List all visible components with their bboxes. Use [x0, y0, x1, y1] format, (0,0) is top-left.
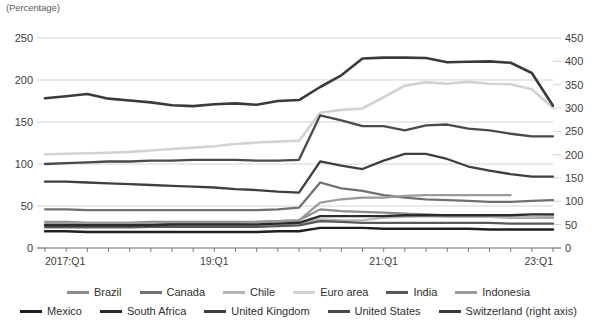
right-axis-tick-label: 350: [565, 79, 583, 91]
gridlines: [45, 38, 553, 206]
legend-swatch-icon: [455, 291, 477, 294]
left-axis-tick-label: 50: [21, 200, 33, 212]
legend-swatch-icon: [328, 310, 350, 313]
legend-swatch-icon: [20, 310, 42, 313]
legend-item[interactable]: United Kingdom: [204, 306, 309, 317]
right-axis-tick-label: 450: [565, 32, 583, 44]
x-axis-tick-label: 23:Q1: [524, 255, 553, 267]
legend-item[interactable]: Brazil: [67, 287, 122, 298]
legend-swatch-icon: [204, 310, 226, 313]
right-axis-tick-label: 200: [565, 149, 583, 161]
legend-item[interactable]: United States: [328, 306, 421, 317]
right-axis-tick-label: 50: [565, 219, 577, 231]
legend-swatch-icon: [67, 291, 89, 294]
right-axis-tick-label: 0: [565, 242, 571, 254]
legend-item-label: United Kingdom: [231, 306, 309, 317]
x-axis-tick-label: 2017:Q1: [45, 255, 85, 267]
legend-swatch-icon: [100, 310, 122, 313]
legend-item-label: Euro area: [320, 287, 368, 298]
legend-item[interactable]: Canada: [140, 287, 206, 298]
x-axis-tick-label: 21:Q1: [369, 255, 398, 267]
legend-item[interactable]: South Africa: [100, 306, 186, 317]
right-axis-tick-label: 300: [565, 102, 583, 114]
chart-figure: (Percentage) 050100150200250 05010015020…: [0, 0, 597, 332]
legend-row-primary: BrazilCanadaChileEuro areaIndiaIndonesia: [0, 283, 597, 302]
chart-legend: BrazilCanadaChileEuro areaIndiaIndonesia…: [0, 283, 597, 321]
legend-item-label: South Africa: [127, 306, 186, 317]
legend-item[interactable]: Switzerland (right axis): [439, 306, 577, 317]
right-axis-ticks: 050100150200250300350400450: [553, 32, 583, 254]
right-axis-tick-label: 400: [565, 55, 583, 67]
legend-item[interactable]: Chile: [223, 287, 275, 298]
legend-item-label: Canada: [167, 287, 206, 298]
legend-item-label: Switzerland (right axis): [466, 306, 577, 317]
legend-item-label: United States: [355, 306, 421, 317]
legend-swatch-icon: [223, 291, 245, 294]
legend-item-label: Mexico: [47, 306, 82, 317]
legend-swatch-icon: [140, 291, 162, 294]
left-axis-tick-label: 0: [27, 242, 33, 254]
legend-item-label: Chile: [250, 287, 275, 298]
legend-swatch-icon: [439, 310, 461, 313]
legend-item-label: India: [413, 287, 437, 298]
left-axis-tick-label: 200: [15, 74, 33, 86]
legend-item[interactable]: Indonesia: [455, 287, 530, 298]
legend-item[interactable]: Euro area: [293, 287, 368, 298]
left-axis-tick-label: 150: [15, 116, 33, 128]
left-axis-tick-label: 250: [15, 32, 33, 44]
legend-swatch-icon: [293, 291, 315, 294]
right-axis-tick-label: 250: [565, 125, 583, 137]
right-axis-tick-label: 100: [565, 195, 583, 207]
legend-item-label: Indonesia: [482, 287, 530, 298]
left-axis-ticks: 050100150200250: [15, 32, 45, 254]
x-axis: 2017:Q119:Q121:Q123:Q1: [37, 248, 561, 267]
legend-row-secondary: MexicoSouth AfricaUnited KingdomUnited S…: [0, 302, 597, 321]
x-axis-tick-label: 19:Q1: [200, 255, 229, 267]
legend-item[interactable]: Mexico: [20, 306, 82, 317]
left-axis-tick-label: 100: [15, 158, 33, 170]
right-axis-tick-label: 150: [565, 172, 583, 184]
legend-item-label: Brazil: [94, 287, 122, 298]
legend-item[interactable]: India: [386, 287, 437, 298]
legend-swatch-icon: [386, 291, 408, 294]
series-line-euro-area: [45, 82, 553, 154]
